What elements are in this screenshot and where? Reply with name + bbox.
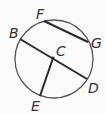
label-g: G [91, 35, 102, 51]
circle-diagram: F B C G D E [0, 0, 106, 114]
center-point [51, 56, 54, 59]
label-c: C [56, 43, 66, 59]
label-d: D [88, 80, 99, 96]
label-b: B [9, 25, 19, 41]
label-f: F [36, 6, 45, 22]
label-e: E [31, 98, 40, 114]
radius-ce [40, 58, 53, 96]
